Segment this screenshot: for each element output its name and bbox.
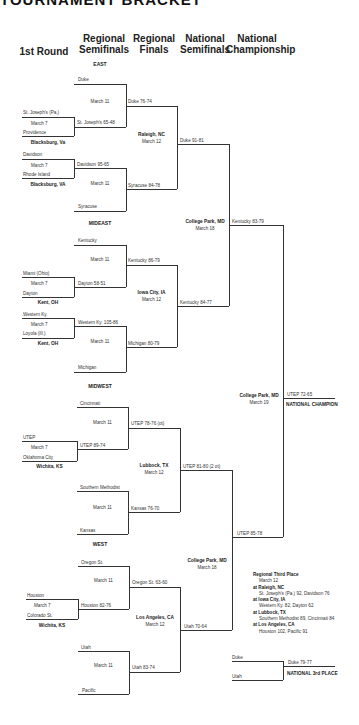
bracket-line: [129, 587, 180, 588]
bracket-line: [26, 599, 78, 600]
bracket-line: [232, 537, 283, 538]
game-date: March 11: [77, 420, 128, 426]
game-date: March 12: [129, 622, 181, 628]
bracket-line: [74, 211, 126, 212]
third-place-label: NATIONAL 3rd PLACE: [287, 671, 338, 677]
bracket-line: [78, 694, 129, 695]
regional-third-place: Regional Third Place March 12 at Raleigh…: [253, 572, 334, 635]
team-label: Duke 76-74: [128, 99, 152, 105]
page-title: TOURNAMENT BRACKET: [0, 0, 202, 8]
bracket-line: [229, 225, 283, 226]
bracket-line: [74, 245, 126, 246]
game-site: College Park, MD: [237, 393, 281, 399]
game-site: Blacksburg, VA: [22, 182, 74, 188]
bracket-line: [22, 297, 74, 298]
bracket-line: [78, 566, 129, 567]
game-date: March 18: [183, 226, 227, 232]
bracket-line: [74, 326, 126, 327]
game-date: March 11: [74, 181, 126, 187]
header-regional-semifinals: Regional Semifinals: [78, 33, 130, 55]
team-label: St. Joseph's 65-48: [77, 120, 115, 126]
bracket-line: [22, 178, 74, 179]
bracket-line: [22, 159, 74, 160]
bracket-line: [22, 277, 74, 278]
header-regional-finals: Regional Finals: [132, 33, 176, 55]
bracket-line: [128, 512, 180, 513]
team-label: Oregon St. 63-60: [132, 580, 167, 586]
game-date: March 19: [237, 400, 281, 406]
game-date: March 12: [128, 470, 180, 476]
team-label: Loyola (Ill.): [23, 331, 45, 337]
bracket-line: [77, 491, 128, 492]
game-site: College Park, MD: [183, 219, 227, 225]
bracket-line: [232, 661, 283, 662]
third-place-result: Houston 102, Pacific 91: [253, 629, 334, 635]
bracket-line: [283, 661, 284, 680]
bracket-line: [177, 144, 229, 145]
bracket-line: [74, 287, 126, 288]
game-site: Kent, OH: [22, 300, 74, 306]
game-date: March 11: [78, 663, 129, 669]
team-label: Kentucky: [78, 238, 97, 244]
bracket-line: [283, 666, 335, 667]
bracket-line: [128, 428, 180, 429]
bracket-line: [22, 318, 74, 319]
game-site: Kent, OH: [22, 341, 74, 347]
game-date: March 7: [31, 322, 48, 328]
bracket-line: [126, 265, 177, 266]
bracket-line: [74, 168, 126, 169]
bracket-line: [77, 441, 78, 461]
team-label: Kentucky 86-79: [128, 258, 160, 264]
bracket-line: [74, 318, 75, 338]
game-date: March 7: [31, 281, 48, 287]
bracket-line: [26, 619, 78, 620]
game-date: March 7: [31, 121, 48, 127]
bracket-line: [232, 470, 233, 630]
bracket-line: [180, 630, 232, 631]
bracket-line: [129, 672, 180, 673]
bracket-line: [74, 372, 126, 373]
bracket-line: [22, 461, 77, 462]
game-date: March 11: [74, 257, 126, 263]
game-site: Iowa City, IA: [126, 290, 177, 296]
bracket-line: [77, 534, 128, 535]
region-midwest: MIDWEST: [70, 383, 130, 389]
team-label: St. Joseph's (Pa.): [23, 110, 59, 116]
game-site: Raleigh, NC: [126, 132, 177, 138]
game-date: March 7: [34, 603, 51, 609]
game-site: Wichita, KS: [26, 623, 78, 629]
bracket-line: [283, 398, 335, 399]
team-label: Duke: [78, 77, 89, 83]
game-site: Wichita, KS: [22, 464, 77, 470]
bracket-line: [78, 609, 129, 610]
bracket-line: [78, 651, 129, 652]
bracket-line: [74, 84, 126, 85]
game-site: Los Angeles, CA: [129, 615, 181, 621]
bracket-line: [177, 306, 229, 307]
game-date: March 7: [31, 163, 48, 169]
bracket-line: [126, 245, 127, 287]
game-date: March 12: [126, 297, 177, 303]
game-date: March 18: [184, 565, 230, 571]
bracket-line: [126, 106, 177, 107]
bracket-line: [22, 338, 74, 339]
team-label: Michigan: [78, 365, 96, 371]
region-west: WEST: [70, 541, 130, 547]
bracket-line: [77, 449, 128, 450]
bracket-line: [126, 189, 177, 190]
game-date: March 11: [78, 578, 129, 584]
header-first-round: 1st Round: [14, 46, 74, 57]
bracket-line: [22, 117, 74, 118]
bracket-line: [77, 407, 128, 408]
team-label: Syracuse: [78, 204, 97, 210]
bracket-line: [22, 441, 77, 442]
region-east: EAST: [70, 61, 130, 67]
team-label: UTEP 78-76 (ot): [131, 421, 164, 427]
bracket-line: [74, 127, 126, 128]
game-date: March 11: [77, 505, 128, 511]
bracket-line: [180, 470, 232, 471]
game-date: March 12: [126, 139, 177, 145]
header-national-championship: National Championship: [226, 33, 288, 55]
bracket-line: [283, 225, 284, 537]
game-date: March 11: [74, 99, 126, 105]
